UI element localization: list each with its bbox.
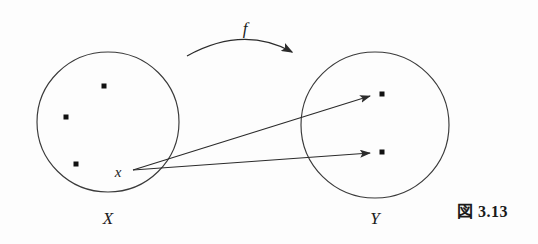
element-x-label: x [114,164,122,180]
function-arc [187,39,292,56]
set-x-circle [37,52,179,192]
dot-y-1 [380,92,385,97]
dot-y-2 [380,150,385,155]
set-x-label: X [102,209,114,228]
set-y-label: Y [370,209,381,228]
function-arc-group: f [187,19,292,56]
figure-container: X x Y f 図 3.13 [0,0,538,244]
mapping-arrows-group [133,96,370,170]
arrow-x-to-y1 [133,96,370,170]
dot-x-3 [74,162,79,167]
function-label-f: f [243,19,250,38]
arrow-x-to-y2 [133,153,370,170]
set-y-group: Y [301,52,449,228]
dot-x-1 [102,84,107,89]
figure-caption: 図 3.13 [457,204,508,220]
set-x-group: X x [37,52,179,228]
dot-x-2 [64,115,69,120]
set-y-circle [301,52,449,198]
